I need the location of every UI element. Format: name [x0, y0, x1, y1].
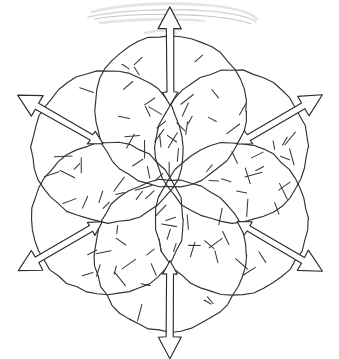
- double-headed-arrow-upper-right-outline: [237, 95, 322, 144]
- figure-root: [0, 0, 339, 359]
- hatch-texture-upper-right: [177, 90, 295, 191]
- petal-layer: [18, 7, 323, 359]
- double-headed-arrow-down-outline: [158, 261, 181, 359]
- double-headed-arrow-lower-left-outline: [18, 222, 102, 271]
- double-headed-arrow-upper-right: [237, 95, 322, 144]
- circle-upper-left: [31, 71, 184, 224]
- double-headed-arrow-lower-right-outline: [237, 222, 322, 272]
- double-headed-arrow-lower-right: [237, 222, 322, 272]
- circle-lower-left: [32, 142, 184, 295]
- double-headed-arrow-up-outline: [158, 7, 181, 105]
- double-headed-arrow-lower-left: [18, 222, 102, 271]
- double-headed-arrow-upper-left-outline: [18, 95, 103, 144]
- rosette-diagram: [0, 0, 339, 359]
- hatch-texture-lower-left: [60, 158, 163, 286]
- hatch-texture-top: [119, 55, 240, 176]
- double-headed-arrow-up: [158, 7, 181, 105]
- circle-lower-right: [155, 143, 308, 296]
- double-headed-arrow-upper-left: [18, 95, 103, 144]
- double-headed-arrow-down: [158, 261, 181, 359]
